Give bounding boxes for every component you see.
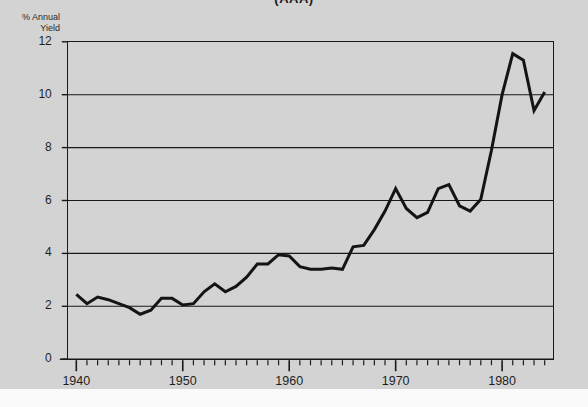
y-axis-tick-label: 2 — [12, 298, 52, 312]
data-series-group — [76, 54, 544, 315]
chart-page: (AAA) % Annual Yield 024681012 194019501… — [0, 0, 588, 407]
y-axis-tick-label: 8 — [12, 140, 52, 154]
x-axis-tick-label: 1980 — [472, 374, 532, 388]
x-axis-ticks-group — [60, 359, 553, 371]
y-axis-tick-label: 10 — [12, 87, 52, 101]
y-axis-tick-label: 12 — [12, 34, 52, 48]
x-axis-tick-label: 1940 — [46, 374, 106, 388]
x-axis-tick-label: 1970 — [366, 374, 426, 388]
y-axis-tick-label: 0 — [12, 351, 52, 365]
x-axis-tick-label: 1950 — [153, 374, 213, 388]
x-axis-tick-label: 1960 — [259, 374, 319, 388]
y-axis-tick-label: 6 — [12, 193, 52, 207]
y-axis-ticks-group — [62, 42, 68, 359]
chart-svg-overlay — [0, 0, 588, 407]
y-axis-tick-label: 4 — [12, 245, 52, 259]
data-series-line — [76, 54, 544, 315]
